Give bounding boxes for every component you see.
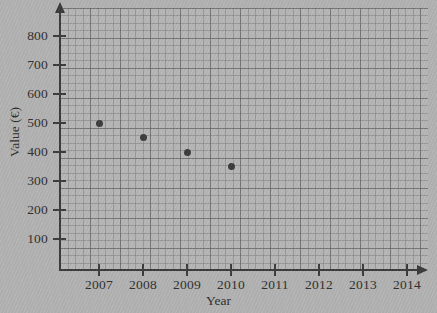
y-tick-mark [53, 93, 66, 95]
x-tick-mark [406, 264, 408, 276]
x-axis-line [59, 269, 419, 271]
data-point-2009 [184, 149, 191, 156]
x-tick-mark [142, 264, 144, 276]
x-tick-mark [98, 264, 100, 276]
x-tick-mark [230, 264, 232, 276]
y-tick-mark [53, 64, 66, 66]
data-point-2007 [96, 120, 103, 127]
y-tick-mark [53, 151, 66, 153]
y-tick-label-100: 100 [4, 231, 48, 247]
x-tick-mark [318, 264, 320, 276]
data-point-2010 [228, 163, 235, 170]
y-axis-line [59, 12, 61, 271]
y-tick-mark [53, 122, 66, 124]
y-tick-label-700: 700 [4, 57, 48, 73]
y-axis-title: Value (€) [7, 84, 23, 180]
y-axis-arrow-icon [55, 2, 65, 13]
x-axis-arrow-icon [417, 265, 428, 275]
x-tick-label-2014: 2014 [381, 277, 433, 293]
plot-grid-area [60, 8, 428, 270]
y-tick-mark [53, 209, 66, 211]
y-tick-label-200: 200 [4, 202, 48, 218]
y-tick-mark [53, 35, 66, 37]
y-tick-mark [53, 180, 66, 182]
y-tick-mark [53, 238, 66, 240]
scatter-chart-figure: 800 700 600 500 400 300 200 100 2007 200… [0, 0, 437, 313]
x-tick-mark [186, 264, 188, 276]
x-tick-mark [274, 264, 276, 276]
x-axis-title: Year [0, 293, 437, 309]
x-tick-mark [362, 264, 364, 276]
y-tick-label-800: 800 [4, 28, 48, 44]
data-point-2008 [140, 134, 147, 141]
